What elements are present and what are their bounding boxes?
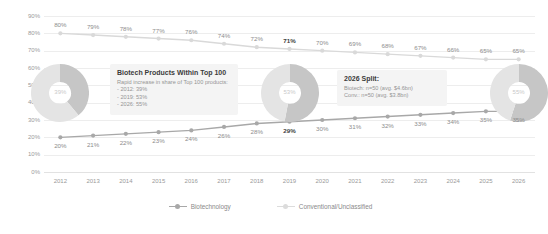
data-point-label: 76% — [176, 28, 206, 35]
x-axis-tick-label: 2015 — [142, 178, 176, 184]
data-point-marker[interactable] — [156, 130, 160, 134]
data-point-label: 24% — [176, 135, 206, 142]
data-point-label: 68% — [373, 42, 403, 49]
donut-value-label: 53% — [261, 89, 319, 95]
data-point-marker[interactable] — [91, 134, 95, 138]
donut-chart-2026: 55% — [490, 64, 548, 122]
data-point-marker[interactable] — [353, 50, 357, 54]
chart-legend: Biotechnology Conventional/Unclassified — [0, 203, 541, 210]
data-point-label: 66% — [438, 46, 468, 53]
x-axis-tick-label: 2014 — [109, 178, 143, 184]
data-point-marker[interactable] — [320, 49, 324, 53]
x-axis-tick-label: 2021 — [338, 178, 372, 184]
x-axis-tick-label: 2026 — [502, 178, 536, 184]
data-point-label: 65% — [471, 47, 501, 54]
data-point-label: 78% — [111, 25, 141, 32]
data-point-label: 23% — [144, 137, 174, 144]
data-point-label: 20% — [45, 142, 75, 149]
data-point-label: 21% — [78, 141, 108, 148]
x-axis-tick-label: 2020 — [305, 178, 339, 184]
data-point-label: 28% — [242, 128, 272, 135]
annotation-line: Conv.: n=50 (avg. $3.8bn) — [344, 92, 440, 100]
data-point-marker[interactable] — [451, 56, 455, 60]
data-point-marker[interactable] — [418, 54, 422, 58]
data-point-marker[interactable] — [484, 109, 488, 113]
data-point-label: 67% — [405, 44, 435, 51]
x-axis-tick-label: 2018 — [240, 178, 274, 184]
data-point-marker[interactable] — [353, 116, 357, 120]
x-axis-tick-label: 2025 — [469, 178, 503, 184]
annotation-2026-split: 2026 Split: Biotech: n=50 (avg. $4.6bn) … — [337, 70, 447, 106]
data-point-label: 34% — [438, 118, 468, 125]
data-point-marker[interactable] — [58, 31, 62, 35]
data-point-label: 32% — [373, 122, 403, 129]
x-axis-tick-label: 2016 — [174, 178, 208, 184]
data-point-label: 35% — [471, 116, 501, 123]
data-point-marker[interactable] — [386, 114, 390, 118]
x-axis-tick-label: 2022 — [371, 178, 405, 184]
data-point-marker[interactable] — [124, 132, 128, 136]
data-point-label: 26% — [209, 132, 239, 139]
data-point-label: 33% — [405, 120, 435, 127]
data-point-marker[interactable] — [386, 52, 390, 56]
x-axis-tick-label: 2019 — [273, 178, 307, 184]
legend-label: Biotechnology — [191, 203, 231, 210]
data-point-marker[interactable] — [91, 33, 95, 37]
data-point-label: 70% — [307, 39, 337, 46]
x-axis-tick-label: 2013 — [76, 178, 110, 184]
data-point-marker[interactable] — [517, 57, 521, 61]
annotation-title: 2026 Split: — [344, 75, 440, 82]
data-point-label: 72% — [242, 35, 272, 42]
x-axis-tick-label: 2024 — [436, 178, 470, 184]
legend-marker-icon — [169, 203, 187, 210]
data-point-label: 30% — [307, 125, 337, 132]
donut-value-label: 39% — [31, 89, 89, 95]
data-point-marker[interactable] — [255, 121, 259, 125]
annotation-subtitle: Rapid increase in share of Top 100 produ… — [117, 79, 231, 85]
data-point-marker[interactable] — [189, 128, 193, 132]
data-point-marker[interactable] — [222, 125, 226, 129]
x-axis-tick-label: 2017 — [207, 178, 241, 184]
legend-item-conventional[interactable]: Conventional/Unclassified — [277, 203, 373, 210]
legend-item-biotechnology[interactable]: Biotechnology — [169, 203, 231, 210]
annotation-title: Biotech Products Within Top 100 — [117, 69, 231, 76]
data-point-marker[interactable] — [418, 113, 422, 117]
donut-value-label: 55% — [490, 89, 548, 95]
data-point-marker[interactable] — [287, 47, 291, 51]
data-point-marker[interactable] — [189, 38, 193, 42]
data-point-marker[interactable] — [58, 135, 62, 139]
data-point-marker[interactable] — [156, 36, 160, 40]
x-axis-tick-label: 2012 — [43, 178, 77, 184]
legend-label: Conventional/Unclassified — [299, 203, 373, 210]
data-point-label: 69% — [340, 40, 370, 47]
data-point-label: 31% — [340, 123, 370, 130]
data-point-label: 29% — [275, 127, 305, 134]
data-point-marker[interactable] — [451, 111, 455, 115]
annotation-line: Biotech: n=50 (avg. $4.6bn) — [344, 85, 440, 93]
data-point-marker[interactable] — [124, 35, 128, 39]
data-point-label: 22% — [111, 139, 141, 146]
legend-marker-icon — [277, 203, 295, 210]
donut-chart-2012: 39% — [31, 64, 89, 122]
data-point-label: 71% — [275, 37, 305, 44]
data-point-marker[interactable] — [255, 45, 259, 49]
data-point-label: 74% — [209, 32, 239, 39]
annotation-biotech-top100: Biotech Products Within Top 100 Rapid in… — [110, 64, 238, 115]
donut-chart-2019: 53% — [261, 64, 319, 122]
annotation-line: - 2019: 53% — [117, 94, 231, 102]
data-point-label: 80% — [45, 21, 75, 28]
data-point-marker[interactable] — [320, 118, 324, 122]
data-point-label: 65% — [504, 47, 534, 54]
data-point-marker[interactable] — [484, 57, 488, 61]
x-axis-tick-label: 2023 — [403, 178, 437, 184]
annotation-line: - 2026: 55% — [117, 101, 231, 109]
annotation-line: - 2012: 39% — [117, 86, 231, 94]
data-point-label: 35% — [504, 116, 534, 123]
data-point-label: 79% — [78, 23, 108, 30]
data-point-marker[interactable] — [222, 42, 226, 46]
data-point-label: 77% — [144, 27, 174, 34]
